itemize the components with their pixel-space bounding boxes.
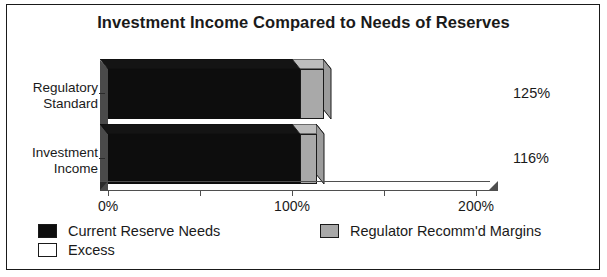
x-axis-back-line: [100, 181, 490, 182]
bar-2-gray-side-face: [316, 124, 326, 185]
bar-1-gray-side-face: [323, 59, 333, 120]
x-tick-0: [108, 190, 109, 196]
x-tick-150: [384, 190, 385, 196]
legend-label: Current Reserve Needs: [68, 222, 220, 241]
bar-1-segment-current-reserve-needs: [108, 69, 300, 119]
chart-legend: Current Reserve Needs Excess Regulator R…: [0, 222, 607, 270]
x-axis-line: [108, 190, 498, 191]
category-label-line1: Investment: [32, 145, 98, 160]
y-tick-regulatory-standard: [99, 93, 105, 94]
bar-2-segment-current-reserve-needs: [108, 134, 300, 184]
category-label-line1: Regulatory: [33, 80, 98, 95]
x-tick-100: [292, 190, 293, 196]
legend-swatch-icon: [38, 224, 57, 238]
chart-container: Investment Income Compared to Needs of R…: [0, 0, 607, 277]
category-label-line2: Income: [6, 161, 98, 177]
bar-1-segment-regulator-margins: [300, 69, 324, 119]
axis-origin-wedge: [100, 181, 108, 190]
value-label-investment-income: 116%: [513, 150, 549, 166]
legend-swatch-icon: [38, 243, 57, 257]
x-tick-label-0: 0%: [73, 198, 143, 214]
y-tick-investment-income: [99, 158, 105, 159]
category-label-investment-income: Investment Income: [6, 145, 98, 176]
x-tick-200: [476, 190, 477, 196]
x-tick-50: [200, 190, 201, 196]
x-axis-arrow-icon: [489, 181, 498, 190]
legend-label: Excess: [68, 241, 115, 260]
bar-2-segment-regulator-margins: [300, 134, 317, 184]
category-label-line2: Standard: [6, 96, 98, 112]
legend-label: Regulator Recomm'd Margins: [350, 222, 541, 241]
x-tick-label-200: 200%: [441, 198, 511, 214]
legend-swatch-icon: [320, 224, 339, 238]
category-label-regulatory-standard: Regulatory Standard: [6, 80, 98, 111]
value-label-regulatory-standard: 125%: [513, 85, 550, 101]
x-tick-label-100: 100%: [257, 198, 327, 214]
